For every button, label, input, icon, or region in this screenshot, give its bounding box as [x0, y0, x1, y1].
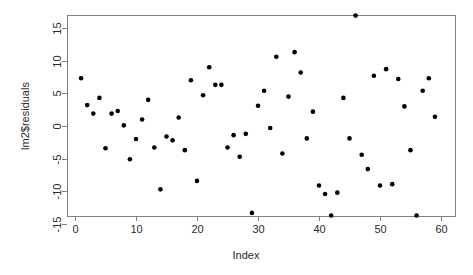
data-point — [280, 151, 285, 156]
x-axis-tick-labels: 0102030405060 — [72, 223, 447, 235]
data-point — [378, 183, 383, 188]
y-tick-label--5: -5 — [51, 155, 63, 165]
data-point — [170, 138, 175, 143]
x-tick-label-0: 0 — [72, 223, 78, 235]
data-point — [115, 109, 120, 114]
data-point — [420, 88, 425, 93]
y-tick-label-5: 5 — [51, 90, 63, 96]
data-point — [256, 103, 261, 108]
data-point — [158, 187, 163, 192]
data-point — [323, 192, 328, 197]
data-point — [207, 65, 212, 70]
data-point — [433, 115, 438, 120]
data-point — [201, 93, 206, 98]
data-point — [79, 76, 84, 81]
data-point — [237, 154, 242, 159]
data-point — [250, 211, 255, 216]
data-point — [311, 109, 316, 114]
data-point — [164, 134, 169, 139]
y-tick-label--15: -15 — [51, 217, 63, 233]
data-point — [140, 117, 145, 122]
data-point — [219, 83, 224, 88]
data-point — [298, 70, 303, 75]
x-tick-label-40: 40 — [313, 223, 325, 235]
axis-lines — [68, 16, 456, 217]
data-point — [195, 179, 200, 184]
y-axis-tick-labels: 151050-5-10-15 — [51, 22, 63, 232]
data-point — [292, 50, 297, 55]
data-point — [183, 148, 188, 153]
data-point — [341, 96, 346, 101]
data-point — [414, 213, 419, 218]
y-tick-label--10: -10 — [51, 184, 63, 200]
data-point — [109, 111, 114, 116]
data-point — [128, 157, 133, 162]
x-tick-label-20: 20 — [191, 223, 203, 235]
x-tick-label-10: 10 — [130, 223, 142, 235]
data-point — [402, 104, 407, 109]
data-point — [213, 83, 218, 88]
data-point — [366, 167, 371, 172]
data-point — [85, 103, 90, 108]
plot-canvas: 0102030405060 151050-5-10-15 Index lm2$r… — [0, 0, 473, 275]
data-point — [305, 136, 310, 141]
x-tick-label-50: 50 — [374, 223, 386, 235]
data-point — [329, 213, 334, 218]
y-tick-label-15: 15 — [51, 22, 63, 34]
data-point — [274, 54, 279, 59]
scatter-plot-figure: 0102030405060 151050-5-10-15 Index lm2$r… — [0, 0, 473, 275]
data-point — [396, 77, 401, 82]
data-point — [286, 94, 291, 99]
data-point — [225, 145, 230, 150]
data-point — [408, 148, 413, 153]
data-point — [152, 145, 157, 150]
data-point — [103, 146, 108, 151]
data-point — [359, 152, 364, 157]
data-point — [384, 67, 389, 72]
x-tick-label-30: 30 — [252, 223, 264, 235]
data-point — [122, 123, 127, 128]
data-point — [347, 136, 352, 141]
data-point — [134, 137, 139, 142]
data-point — [353, 13, 358, 18]
data-point — [335, 190, 340, 195]
data-point — [97, 96, 102, 101]
data-point — [372, 73, 377, 78]
data-point — [268, 126, 273, 131]
data-point — [189, 78, 194, 83]
data-point — [176, 115, 181, 120]
data-point — [262, 88, 267, 93]
data-point — [146, 98, 151, 103]
data-point — [231, 133, 236, 138]
data-points — [79, 13, 437, 218]
data-point — [244, 132, 249, 137]
y-axis-title: lm2$residuals — [19, 82, 31, 150]
y-tick-label-10: 10 — [51, 55, 63, 67]
y-tick-label-0: 0 — [51, 123, 63, 129]
data-point — [91, 111, 96, 116]
data-point — [317, 183, 322, 188]
data-point — [390, 182, 395, 187]
data-point — [427, 76, 432, 81]
x-tick-label-60: 60 — [435, 223, 447, 235]
x-axis-title: Index — [233, 249, 260, 261]
